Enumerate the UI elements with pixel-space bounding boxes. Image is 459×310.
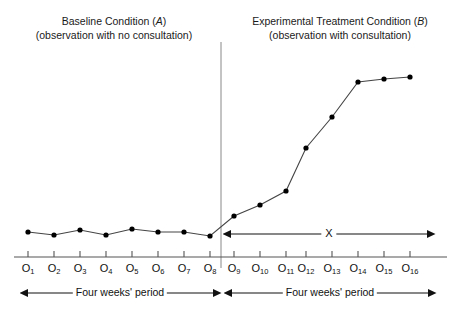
tick-label-O11: O11 [278, 262, 294, 274]
baseline-period-label: Four weeks' period [73, 286, 167, 298]
data-point-O14 [355, 79, 360, 84]
data-point-O13 [329, 114, 334, 119]
tick-label-O4: O4 [100, 262, 113, 274]
data-point-O11 [283, 188, 288, 193]
data-point-O1 [25, 229, 30, 234]
tick-label-O15: O15 [376, 262, 393, 274]
data-series-line [28, 77, 410, 236]
data-point-O16 [407, 74, 412, 79]
tick-label-O7: O7 [178, 262, 191, 274]
tick-label-O9: O9 [228, 262, 241, 274]
data-point-O2 [51, 232, 56, 237]
single-case-design-figure: Baseline Condition (A) (observation with… [0, 0, 459, 310]
data-point-O6 [155, 229, 160, 234]
data-point-O7 [181, 229, 186, 234]
tick-label-O12: O12 [298, 262, 315, 274]
data-point-O15 [381, 76, 386, 81]
tick-label-O8: O8 [204, 262, 217, 274]
tick-label-O13: O13 [324, 262, 341, 274]
tick-label-O2: O2 [48, 262, 61, 274]
tick-label-O10: O10 [252, 262, 269, 274]
tick-label-O3: O3 [74, 262, 87, 274]
treatment-period-label: Four weeks' period [283, 286, 377, 298]
tick-label-O1: O1 [22, 262, 35, 274]
data-point-O9 [231, 213, 236, 218]
tick-label-O6: O6 [152, 262, 165, 274]
treatment-marker-label: X [321, 227, 336, 239]
tick-label-O14: O14 [350, 262, 367, 274]
data-point-O8 [207, 233, 212, 238]
data-point-O4 [103, 232, 108, 237]
data-point-O3 [77, 227, 82, 232]
data-point-markers [25, 74, 412, 238]
x-axis-ticks [28, 251, 410, 257]
tick-label-O5: O5 [126, 262, 139, 274]
data-point-O12 [303, 145, 308, 150]
data-point-O10 [257, 202, 262, 207]
tick-label-O16: O16 [402, 262, 419, 274]
data-point-O5 [129, 226, 134, 231]
